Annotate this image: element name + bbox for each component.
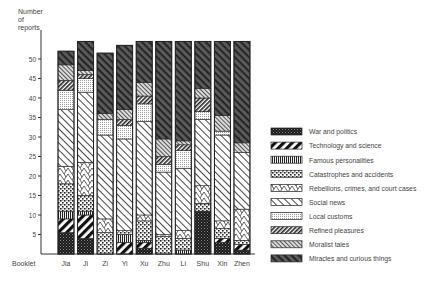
bar-segment-moral bbox=[78, 71, 94, 75]
x-tick-label: Shu bbox=[197, 260, 210, 267]
legend-label: Moralist tales bbox=[309, 241, 350, 248]
legend-label: Famous personalities bbox=[309, 157, 374, 165]
legend-label: Catastrophes and accidents bbox=[309, 171, 394, 179]
bar-segment-miracle bbox=[117, 45, 133, 109]
bar-segment-moral bbox=[136, 82, 152, 96]
bar-segment-refined bbox=[117, 119, 133, 125]
bar-segment-miracle bbox=[78, 41, 94, 70]
bar-segment-local bbox=[97, 119, 113, 135]
bar-segment-social bbox=[58, 110, 74, 167]
y-tick-label: 20 bbox=[29, 173, 37, 180]
legend-item-famous: Famous personalities bbox=[271, 156, 374, 164]
x-tick-labels: JiaJiZiYiXuZhuLiShuXinZhen bbox=[62, 260, 251, 267]
bar-segment-famous bbox=[78, 211, 94, 215]
legend-label: Technology and science bbox=[309, 142, 382, 150]
bar-segment-social bbox=[78, 92, 94, 162]
bar-li bbox=[175, 41, 191, 254]
bar-segment-local bbox=[78, 79, 94, 93]
bar-segment-social bbox=[214, 135, 230, 221]
y-tick-label: 45 bbox=[29, 75, 37, 82]
legend-item-social: Social news bbox=[271, 199, 346, 206]
x-tick-label: Yi bbox=[122, 260, 128, 267]
bar-ji bbox=[78, 41, 94, 254]
bar-segment-rebel bbox=[58, 166, 74, 184]
legend-label: Miracles and curious things bbox=[309, 255, 392, 263]
x-tick-label: Xu bbox=[140, 260, 149, 267]
bar-shu bbox=[195, 41, 211, 254]
legend-swatch bbox=[271, 170, 302, 177]
legend-item-catas: Catastrophes and accidents bbox=[271, 170, 394, 178]
y-tick-label: 50 bbox=[29, 56, 37, 63]
bar-segment-refined bbox=[175, 145, 191, 151]
stacked-bar-chart: Number of reports 5101520253035404550 Bo… bbox=[0, 0, 436, 284]
legend: War and politicsTechnology and scienceFa… bbox=[271, 128, 417, 263]
x-axis-label: Booklet bbox=[12, 260, 35, 267]
bar-segment-tech bbox=[58, 219, 74, 233]
bar-segment-catas bbox=[58, 184, 74, 211]
bar-segment-tech bbox=[136, 242, 152, 248]
y-axis-label-line: reports bbox=[18, 24, 40, 32]
y-tick-label: 10 bbox=[29, 212, 37, 219]
bar-segment-tech bbox=[214, 238, 230, 242]
legend-swatch bbox=[271, 227, 302, 234]
bar-segment-war bbox=[234, 250, 250, 254]
bar-segment-tech bbox=[78, 215, 94, 238]
bar-segment-refined bbox=[195, 98, 211, 112]
legend-swatch bbox=[271, 142, 302, 149]
legend-swatch bbox=[271, 156, 302, 163]
legend-swatch bbox=[271, 199, 302, 206]
bars bbox=[58, 41, 250, 254]
bar-segment-local bbox=[58, 90, 74, 110]
bar-segment-local bbox=[156, 164, 172, 172]
bar-xu bbox=[136, 41, 152, 254]
bar-segment-refined bbox=[156, 157, 172, 165]
legend-label: Local customs bbox=[309, 213, 353, 220]
legend-swatch bbox=[271, 128, 302, 135]
bar-segment-rebel bbox=[234, 209, 250, 240]
bar-segment-moral bbox=[117, 110, 133, 120]
bar-segment-war bbox=[195, 211, 211, 254]
bar-segment-tech bbox=[234, 244, 250, 250]
bar-segment-moral bbox=[97, 114, 113, 120]
legend-item-rebel: Rebellions, crimes, and court cases bbox=[271, 184, 417, 191]
legend-swatch bbox=[271, 255, 302, 262]
y-axis-label-line: of bbox=[18, 16, 24, 23]
bar-segment-refined bbox=[78, 75, 94, 79]
bar-xin bbox=[214, 41, 230, 254]
legend-item-local: Local customs bbox=[271, 213, 353, 220]
legend-label: Refined pleasures bbox=[309, 227, 364, 235]
bar-zi bbox=[97, 53, 113, 254]
bar-segment-miracle bbox=[195, 41, 211, 88]
bar-segment-moral bbox=[214, 116, 230, 132]
bar-segment-social bbox=[117, 139, 133, 231]
bar-segment-rebel bbox=[195, 186, 211, 204]
bar-segment-tech bbox=[117, 242, 133, 254]
bar-segment-catas bbox=[175, 238, 191, 250]
bar-segment-catas bbox=[156, 236, 172, 254]
bar-zhu bbox=[156, 41, 172, 254]
legend-item-tech: Technology and science bbox=[271, 142, 382, 150]
bar-segment-rebel bbox=[214, 221, 230, 229]
bar-segment-miracle bbox=[136, 41, 152, 82]
bar-segment-social bbox=[136, 121, 152, 215]
x-tick-label: Zhu bbox=[158, 260, 170, 267]
bar-segment-war bbox=[214, 242, 230, 254]
bar-segment-moral bbox=[195, 88, 211, 98]
bar-segment-miracle bbox=[214, 41, 230, 115]
bar-segment-famous bbox=[58, 211, 74, 219]
bar-segment-catas bbox=[195, 203, 211, 211]
legend-swatch bbox=[271, 213, 302, 220]
x-tick-label: Li bbox=[181, 260, 187, 267]
y-tick-label: 25 bbox=[29, 153, 37, 160]
bar-segment-local bbox=[214, 131, 230, 135]
bar-segment-social bbox=[195, 119, 211, 185]
bar-segment-social bbox=[97, 135, 113, 219]
bar-yi bbox=[117, 45, 133, 254]
bar-segment-miracle bbox=[175, 41, 191, 140]
y-ticks: 5101520253035404550 bbox=[29, 56, 41, 239]
bar-jia bbox=[58, 51, 74, 254]
bar-segment-social bbox=[234, 153, 250, 210]
y-tick-label: 40 bbox=[29, 95, 37, 102]
legend-item-refined: Refined pleasures bbox=[271, 227, 364, 235]
bar-segment-social bbox=[175, 168, 191, 230]
